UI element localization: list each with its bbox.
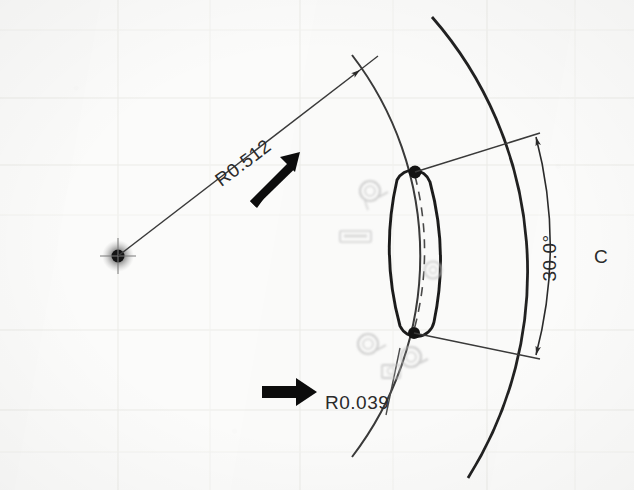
- radius-major-dimension: R0.512: [118, 56, 378, 256]
- ghost-circle-lower-left: [358, 334, 386, 354]
- angle-label: 30.0°: [539, 234, 560, 281]
- technical-drawing: R0.512 30.0° C R0.039: [0, 0, 634, 490]
- ghost-circle-upper-left: [360, 181, 388, 210]
- radius-major-label: R0.512: [211, 135, 275, 190]
- drawing-canvas: R0.512 30.0° C R0.039: [0, 0, 634, 490]
- centerline-symbol: C: [594, 246, 608, 267]
- callout-arrow-radius-minor: [262, 378, 317, 406]
- centerline-symbol-label: C: [594, 246, 608, 267]
- ghost-box-centerline: [340, 231, 371, 242]
- radius-minor-label: R0.039: [325, 392, 389, 413]
- radius-minor-dimension: R0.039: [325, 348, 400, 415]
